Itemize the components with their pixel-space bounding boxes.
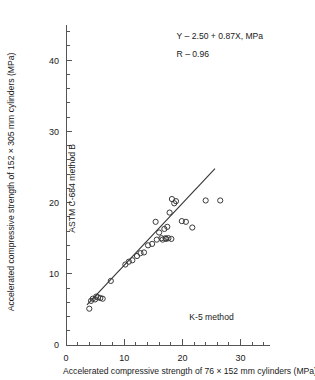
x-tick-label: 20 bbox=[177, 353, 187, 363]
plot-canvas: 0102030010203040 Y – 2.50 + 0.87X, MPaR … bbox=[0, 0, 315, 380]
x-method-label: K-5 method bbox=[189, 312, 234, 322]
chart-annotations: Y – 2.50 + 0.87X, MPaR – 0.96K-5 methodA… bbox=[67, 31, 263, 322]
data-point-marker bbox=[157, 230, 162, 235]
correlation-coefficient: R – 0.96 bbox=[177, 49, 210, 59]
x-axis-title: Accelerated compressive strength of 76 ×… bbox=[63, 366, 315, 376]
scatter-chart-figure: 0102030010203040 Y – 2.50 + 0.87X, MPaR … bbox=[0, 0, 315, 380]
data-point-marker bbox=[218, 198, 223, 203]
x-tick-label: 30 bbox=[236, 353, 246, 363]
y-tick-label: 0 bbox=[54, 340, 59, 350]
data-point-marker bbox=[167, 210, 172, 215]
y-method-label: ASTM C-684 method B bbox=[67, 144, 77, 233]
data-point-marker bbox=[203, 198, 208, 203]
data-point-marker bbox=[190, 225, 195, 230]
data-point-marker bbox=[87, 306, 92, 311]
regression-line bbox=[87, 169, 215, 305]
y-axis-title: Accelerated compressive strength of 152 … bbox=[6, 53, 16, 312]
data-point-marker bbox=[141, 250, 146, 255]
y-tick-label: 40 bbox=[49, 56, 59, 66]
x-tick-label: 0 bbox=[63, 353, 68, 363]
x-tick-label: 10 bbox=[119, 353, 129, 363]
regression-fit-line bbox=[87, 169, 215, 305]
data-point-marker bbox=[134, 253, 139, 258]
y-tick-label: 10 bbox=[49, 269, 59, 279]
data-point-marker bbox=[153, 219, 158, 224]
regression-equation: Y – 2.50 + 0.87X, MPa bbox=[177, 31, 264, 41]
data-points bbox=[87, 196, 223, 311]
y-tick-label: 20 bbox=[49, 198, 59, 208]
axis-titles: Accelerated compressive strength of 76 ×… bbox=[6, 53, 315, 376]
y-tick-label: 30 bbox=[49, 127, 59, 137]
